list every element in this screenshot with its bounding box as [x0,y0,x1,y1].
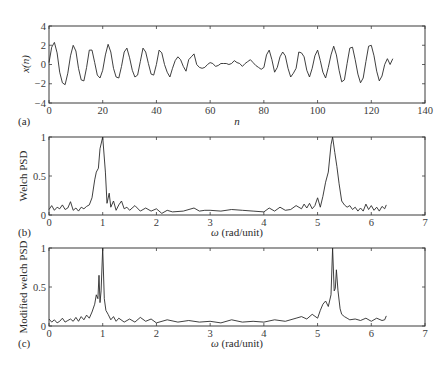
modified-welch-psd-line [49,248,386,323]
y-tick-label: 0 [41,210,46,221]
figure: 020406080100120140−4−2024 x(n) n (a) 012… [0,0,448,366]
panel-a: 020406080100120140−4−2024 x(n) n (a) [18,21,433,129]
x-tick-label: 1 [100,328,105,339]
x-axis-label-a: n [234,115,240,127]
x-tick-label: 20 [97,105,108,116]
y-tick-label: −2 [35,78,46,89]
signal-line [49,42,393,84]
x-tick-label: 0 [46,105,51,116]
welch-psd-line [49,137,386,213]
x-tick-label: 1 [100,217,105,228]
x-axis-label-b: ω (rad/unit) [211,226,263,239]
y-tick-label: 1 [41,243,46,254]
y-tick-label: 0 [41,59,46,70]
x-tick-label: 6 [369,328,374,339]
x-tick-label: 40 [151,105,162,116]
ticks-b: 0123456700.51 [33,132,428,229]
panel-tag-c: (c) [18,337,31,350]
panel-b: 0123456700.51 Welch PSD ω (rad/unit) (b) [17,132,428,240]
x-tick-label: 120 [363,105,379,116]
x-tick-label: 60 [205,105,216,116]
ticks-a: 020406080100120140−4−2024 [35,21,433,117]
x-tick-label: 7 [422,217,427,228]
x-tick-label: 0 [46,217,51,228]
y-tick-label: 2 [41,40,46,51]
panel-tag-b: (b) [18,226,31,239]
y-tick-label: 0.5 [33,282,46,293]
y-axis-label-c: Modified welch PSD [17,241,29,334]
plot-frame-c [49,248,425,326]
x-tick-label: 0 [46,328,51,339]
x-tick-label: 100 [310,105,326,116]
x-tick-label: 140 [417,105,433,116]
x-tick-label: 5 [315,328,320,339]
y-tick-label: 0 [41,321,46,332]
x-tick-label: 5 [315,217,320,228]
x-tick-label: 6 [369,217,374,228]
y-tick-label: −4 [35,98,47,109]
y-tick-label: 1 [41,132,46,143]
y-axis-label-a: x(n) [19,55,32,74]
y-tick-label: 4 [41,21,47,32]
plot-frame-a [49,26,425,103]
x-tick-label: 7 [422,328,427,339]
x-tick-label: 2 [154,217,159,228]
x-tick-label: 2 [154,328,159,339]
panel-c: 0123456700.51 Modified welch PSD ω (rad/… [17,241,428,350]
x-axis-label-c: ω (rad/unit) [211,337,263,350]
y-tick-label: 0.5 [33,171,46,182]
x-tick-label: 80 [259,105,270,116]
y-axis-label-b: Welch PSD [17,151,29,202]
panel-tag-a: (a) [18,115,31,128]
ticks-c: 0123456700.51 [33,243,428,340]
